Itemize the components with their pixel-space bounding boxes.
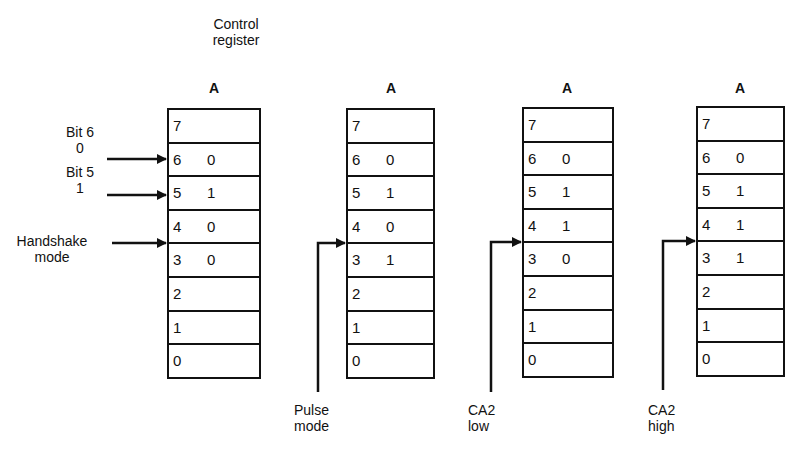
- ca2-low-arrow-icon: [491, 242, 521, 392]
- ca2-high-arrow-icon: [663, 241, 695, 390]
- arrows-layer: [0, 0, 811, 461]
- pulse-mode-arrow-icon: [318, 243, 345, 392]
